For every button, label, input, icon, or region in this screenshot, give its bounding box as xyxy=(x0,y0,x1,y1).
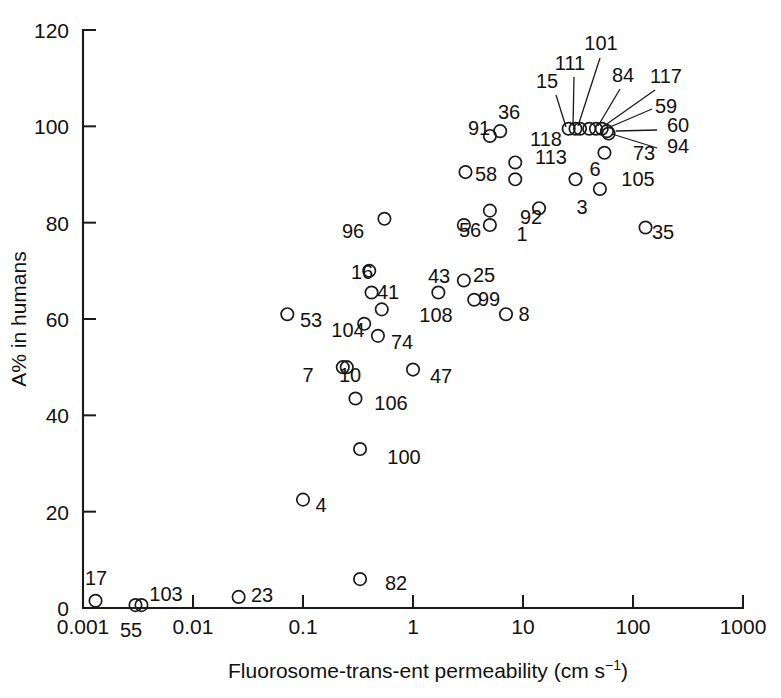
data-point-35 xyxy=(639,221,651,233)
x-axis-title: Fluorosome-trans-ent permeability (cm s−… xyxy=(228,657,628,682)
leader-line-60 xyxy=(616,130,657,131)
data-point-53 xyxy=(281,308,293,320)
tick-marks xyxy=(83,30,743,608)
point-label-53: 53 xyxy=(300,309,322,331)
point-label-25: 25 xyxy=(473,264,495,286)
data-point-106 xyxy=(349,392,361,404)
y-tick-label-3: 60 xyxy=(46,308,69,331)
data-point-105 xyxy=(594,183,606,195)
y-tick-label-5: 100 xyxy=(34,115,69,138)
leader-line-15 xyxy=(556,95,566,127)
point-label-105: 105 xyxy=(621,168,654,190)
data-point-17 xyxy=(89,595,101,607)
point-label-41: 41 xyxy=(377,281,399,303)
y-tick-label-4: 80 xyxy=(46,212,69,235)
data-point-1 xyxy=(484,219,496,231)
data-point-47 xyxy=(407,363,419,375)
point-label-58: 58 xyxy=(475,163,497,185)
leader-line-111 xyxy=(573,77,574,126)
data-point-74 xyxy=(372,330,384,342)
point-label-91: 91 xyxy=(468,117,490,139)
point-label-103: 103 xyxy=(149,583,182,605)
point-label-73: 73 xyxy=(633,142,655,164)
data-point-92 xyxy=(484,204,496,216)
data-point-8 xyxy=(500,308,512,320)
data-point-108 xyxy=(376,303,388,315)
data-point-23 xyxy=(232,591,244,603)
y-tick-label-6: 120 xyxy=(34,19,69,42)
y-tick-label-1: 20 xyxy=(46,501,69,524)
data-point-36 xyxy=(494,125,506,137)
point-label-118: 118 xyxy=(530,128,562,150)
y-axis-title: A% in humans xyxy=(7,251,30,386)
point-label-82: 82 xyxy=(385,572,407,594)
point-label-99: 99 xyxy=(478,288,500,310)
point-label-36: 36 xyxy=(498,101,520,123)
point-label-111: 111 xyxy=(555,52,585,74)
data-point-100 xyxy=(354,443,366,455)
data-point-96 xyxy=(378,213,390,225)
point-label-106: 106 xyxy=(374,392,407,414)
point-label-43: 43 xyxy=(428,265,450,287)
data-point-43 xyxy=(432,286,444,298)
leader-line-117 xyxy=(604,90,655,126)
point-label-35: 35 xyxy=(652,221,674,243)
point-label-4: 4 xyxy=(315,494,326,516)
scatter-plot-figure: 0.0010.010.11101001000020406080100120 17… xyxy=(0,0,781,698)
leader-line-84 xyxy=(598,89,620,126)
x-tick-label-3: 1 xyxy=(407,615,419,638)
data-point-118 xyxy=(509,156,521,168)
point-label-55: 55 xyxy=(120,619,142,641)
data-point-113 xyxy=(509,173,521,185)
point-label-3: 3 xyxy=(576,196,587,218)
point-label-108: 108 xyxy=(419,304,452,326)
data-point-82 xyxy=(354,573,366,585)
y-tick-label-2: 40 xyxy=(46,404,69,427)
data-markers xyxy=(89,123,651,612)
point-label-16: 16 xyxy=(351,261,373,283)
x-tick-label-5: 100 xyxy=(615,615,650,638)
axes xyxy=(83,30,743,608)
axis-spine xyxy=(83,30,743,608)
point-label-74: 74 xyxy=(391,331,413,353)
point-label-104: 104 xyxy=(331,319,364,341)
point-label-47: 47 xyxy=(430,365,452,387)
point-label-100: 100 xyxy=(387,446,420,468)
point-label-6: 6 xyxy=(589,158,600,180)
point-label-10: 10 xyxy=(339,364,361,386)
x-tick-label-2: 0.1 xyxy=(288,615,317,638)
point-label-7: 7 xyxy=(302,364,313,386)
point-label-96: 96 xyxy=(342,220,364,242)
point-label-92: 92 xyxy=(520,206,542,228)
point-label-17: 17 xyxy=(85,567,107,589)
x-tick-label-1: 0.01 xyxy=(173,615,214,638)
point-label-101: 101 xyxy=(584,32,617,54)
point-label-84: 84 xyxy=(612,64,634,86)
point-label-60: 60 xyxy=(667,114,689,136)
x-tick-label-6: 1000 xyxy=(720,615,767,638)
point-label-117: 117 xyxy=(650,65,682,87)
data-point-58 xyxy=(459,166,471,178)
x-tick-label-4: 10 xyxy=(511,615,534,638)
data-point-6 xyxy=(569,173,581,185)
point-label-56: 56 xyxy=(459,219,481,241)
data-point-4 xyxy=(297,493,309,505)
point-label-23: 23 xyxy=(251,584,273,606)
data-point-25 xyxy=(458,274,470,286)
point-label-94: 94 xyxy=(667,135,689,157)
point-label-8: 8 xyxy=(518,303,529,325)
plot-canvas: 0.0010.010.11101001000020406080100120 17… xyxy=(0,0,781,698)
y-tick-label-0: 0 xyxy=(57,597,69,620)
